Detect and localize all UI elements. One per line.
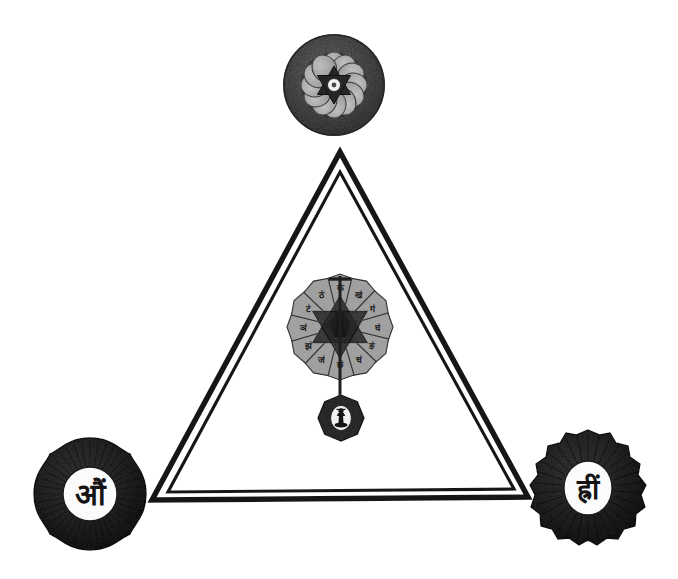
yantra-canvas: कं खं गं घं ङं चं छं जं झं ञं टं ठं	[0, 0, 678, 579]
petal-syllable: टं	[305, 304, 311, 314]
petal-syllable: ङं	[368, 341, 376, 351]
left-chakra-bija: औं	[75, 477, 107, 512]
petal-syllable: घं	[374, 323, 381, 333]
lower-right-chakra: ह्रीं	[530, 430, 646, 545]
petal-syllable: जं	[317, 355, 325, 365]
apex-chakra-bindu-core	[332, 83, 337, 88]
yantra-figure: कं खं गं घं ङं चं छं जं झं ञं टं ठं	[0, 0, 678, 579]
apex-chakra	[283, 34, 385, 136]
petal-syllable: ञं	[299, 323, 307, 333]
lingam-pendant	[318, 395, 364, 441]
lower-left-chakra: औं	[34, 438, 146, 550]
petal-syllable: ठं	[318, 290, 325, 300]
right-chakra-bija: ह्रीं	[576, 473, 601, 506]
petal-syllable: गं	[369, 304, 376, 314]
petal-syllable: झं	[304, 341, 313, 351]
petal-syllable: खं	[354, 290, 363, 300]
petal-syllable: चं	[355, 355, 363, 365]
